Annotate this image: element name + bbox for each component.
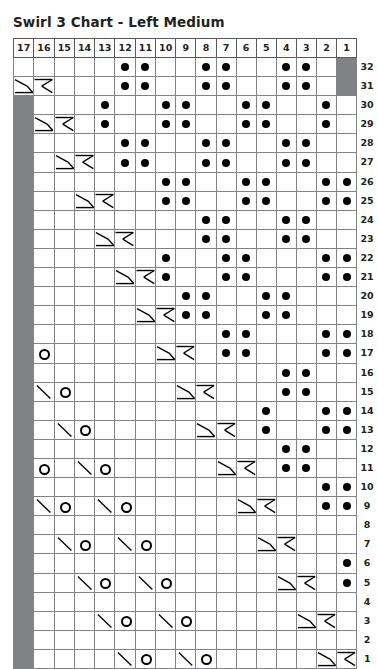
chart-cell-r21-c17[interactable] [14, 268, 34, 287]
chart-cell-r6-c5[interactable] [256, 554, 276, 573]
chart-cell-r4-c12[interactable] [115, 592, 135, 611]
chart-cell-r11-c5[interactable] [256, 458, 276, 477]
chart-cell-r12-c7[interactable] [216, 439, 236, 458]
chart-cell-r2-c7[interactable] [216, 630, 236, 649]
chart-cell-r19-c17[interactable] [14, 306, 34, 325]
chart-cell-r28-c16[interactable] [34, 134, 54, 153]
chart-cell-r20-c9[interactable] [176, 287, 196, 306]
chart-cell-r22-c10[interactable] [156, 248, 176, 267]
chart-cell-r9-c12[interactable] [115, 497, 135, 516]
chart-cell-r1-c8[interactable] [196, 649, 216, 668]
chart-cell-r8-c7[interactable] [216, 516, 236, 535]
chart-cell-r1-c14[interactable] [74, 649, 94, 668]
chart-cell-r10-c16[interactable] [34, 478, 54, 497]
chart-cell-r16-c8[interactable] [196, 363, 216, 382]
chart-cell-r27-c12[interactable] [115, 153, 135, 172]
chart-cell-r27-c9[interactable] [176, 153, 196, 172]
chart-cell-r14-c12[interactable] [115, 401, 135, 420]
chart-cell-r7-c4[interactable] [276, 535, 296, 554]
chart-cell-r24-c12[interactable] [115, 210, 135, 229]
chart-cell-r5-c6[interactable] [236, 573, 256, 592]
chart-cell-r22-c7[interactable] [216, 248, 236, 267]
chart-cell-r25-c16[interactable] [34, 191, 54, 210]
chart-cell-r17-c4[interactable] [276, 344, 296, 363]
chart-cell-r1-c7[interactable] [216, 649, 236, 668]
chart-cell-r15-c8[interactable] [196, 382, 216, 401]
chart-cell-r12-c3[interactable] [296, 439, 316, 458]
chart-cell-r28-c12[interactable] [115, 134, 135, 153]
chart-cell-r17-c1[interactable] [337, 344, 357, 363]
chart-cell-r13-c13[interactable] [95, 420, 115, 439]
chart-cell-r11-c16[interactable] [34, 458, 54, 477]
chart-cell-r21-c2[interactable] [316, 268, 336, 287]
chart-cell-r32-c16[interactable] [34, 58, 54, 77]
chart-cell-r3-c5[interactable] [256, 611, 276, 630]
chart-cell-r21-c3[interactable] [296, 268, 316, 287]
chart-cell-r14-c7[interactable] [216, 401, 236, 420]
chart-cell-r8-c6[interactable] [236, 516, 256, 535]
chart-cell-r29-c14[interactable] [74, 115, 94, 134]
chart-cell-r1-c5[interactable] [256, 649, 276, 668]
chart-cell-r17-c8[interactable] [196, 344, 216, 363]
chart-cell-r30-c4[interactable] [276, 96, 296, 115]
chart-cell-r15-c3[interactable] [296, 382, 316, 401]
chart-cell-r29-c11[interactable] [135, 115, 155, 134]
chart-cell-r23-c13[interactable] [95, 229, 115, 248]
chart-cell-r31-c16[interactable] [34, 77, 54, 96]
chart-cell-r11-c12[interactable] [115, 458, 135, 477]
chart-cell-r25-c1[interactable] [337, 191, 357, 210]
chart-cell-r10-c11[interactable] [135, 478, 155, 497]
chart-cell-r8-c9[interactable] [176, 516, 196, 535]
chart-cell-r31-c11[interactable] [135, 77, 155, 96]
chart-cell-r32-c15[interactable] [54, 58, 74, 77]
chart-cell-r16-c10[interactable] [156, 363, 176, 382]
chart-cell-r28-c10[interactable] [156, 134, 176, 153]
chart-cell-r17-c15[interactable] [54, 344, 74, 363]
chart-cell-r28-c11[interactable] [135, 134, 155, 153]
chart-cell-r14-c8[interactable] [196, 401, 216, 420]
chart-cell-r9-c4[interactable] [276, 497, 296, 516]
chart-cell-r30-c10[interactable] [156, 96, 176, 115]
chart-cell-r15-c14[interactable] [74, 382, 94, 401]
chart-cell-r10-c12[interactable] [115, 478, 135, 497]
chart-cell-r4-c10[interactable] [156, 592, 176, 611]
chart-cell-r12-c14[interactable] [74, 439, 94, 458]
chart-cell-r15-c4[interactable] [276, 382, 296, 401]
chart-cell-r14-c10[interactable] [156, 401, 176, 420]
chart-cell-r15-c10[interactable] [156, 382, 176, 401]
chart-cell-r13-c1[interactable] [337, 420, 357, 439]
chart-cell-r15-c7[interactable] [216, 382, 236, 401]
chart-cell-r29-c9[interactable] [176, 115, 196, 134]
chart-cell-r27-c10[interactable] [156, 153, 176, 172]
chart-cell-r18-c17[interactable] [14, 325, 34, 344]
chart-cell-r22-c12[interactable] [115, 248, 135, 267]
chart-cell-r13-c4[interactable] [276, 420, 296, 439]
chart-cell-r14-c17[interactable] [14, 401, 34, 420]
chart-cell-r20-c12[interactable] [115, 287, 135, 306]
chart-cell-r29-c8[interactable] [196, 115, 216, 134]
chart-cell-r2-c1[interactable] [337, 630, 357, 649]
chart-cell-r16-c15[interactable] [54, 363, 74, 382]
chart-cell-r28-c9[interactable] [176, 134, 196, 153]
chart-cell-r9-c14[interactable] [74, 497, 94, 516]
chart-cell-r22-c17[interactable] [14, 248, 34, 267]
chart-cell-r23-c4[interactable] [276, 229, 296, 248]
chart-cell-r26-c4[interactable] [276, 172, 296, 191]
chart-cell-r19-c1[interactable] [337, 306, 357, 325]
chart-cell-r21-c1[interactable] [337, 268, 357, 287]
chart-cell-r21-c9[interactable] [176, 268, 196, 287]
chart-cell-r25-c12[interactable] [115, 191, 135, 210]
chart-cell-r16-c13[interactable] [95, 363, 115, 382]
chart-cell-r11-c9[interactable] [176, 458, 196, 477]
chart-cell-r19-c6[interactable] [236, 306, 256, 325]
chart-cell-r5-c10[interactable] [156, 573, 176, 592]
chart-cell-r6-c14[interactable] [74, 554, 94, 573]
chart-cell-r12-c6[interactable] [236, 439, 256, 458]
chart-cell-r5-c14[interactable] [74, 573, 94, 592]
chart-cell-r12-c9[interactable] [176, 439, 196, 458]
chart-cell-r25-c6[interactable] [236, 191, 256, 210]
chart-cell-r1-c15[interactable] [54, 649, 74, 668]
chart-cell-r3-c3[interactable] [296, 611, 316, 630]
chart-cell-r8-c17[interactable] [14, 516, 34, 535]
chart-cell-r21-c11[interactable] [135, 268, 155, 287]
